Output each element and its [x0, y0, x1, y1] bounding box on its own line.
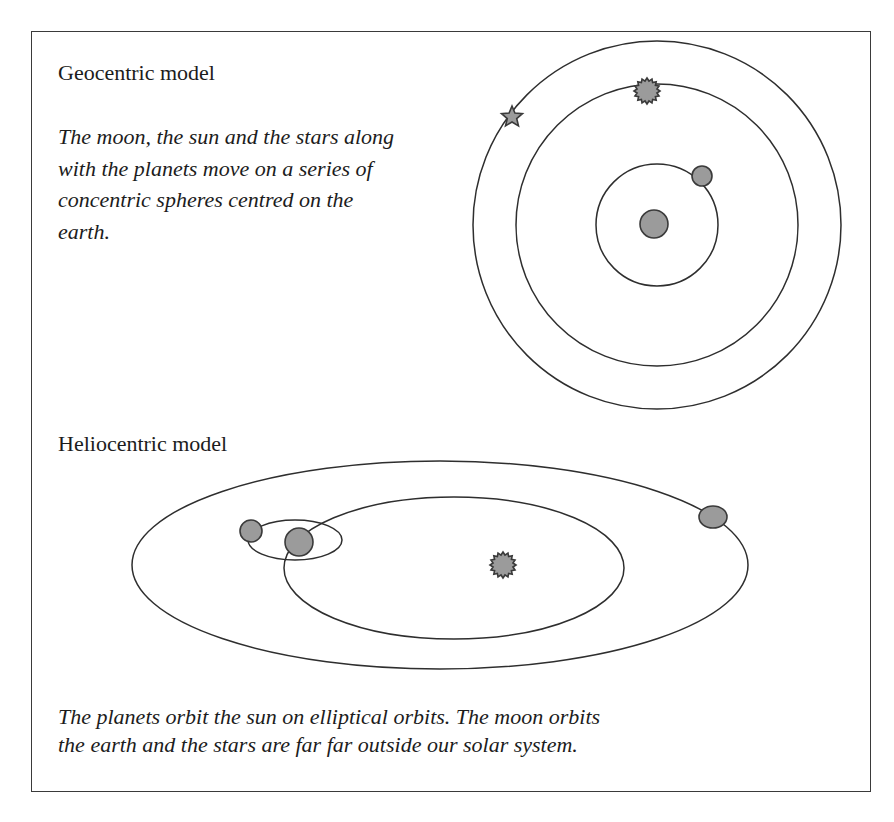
earth-body — [640, 210, 668, 238]
heliocentric-diagram — [132, 461, 748, 669]
geocentric-title: Geocentric model — [58, 62, 215, 84]
heliocentric-title: Heliocentric model — [58, 433, 227, 455]
earth-orbit — [284, 497, 624, 639]
caption-line: The moon, the sun and the stars along — [58, 121, 394, 153]
outer-planet-orbit — [132, 461, 748, 669]
outer-planet-body — [699, 506, 727, 528]
caption-line: with the planets move on a series of — [58, 153, 394, 185]
geocentric-caption: The moon, the sun and the stars along wi… — [58, 121, 394, 247]
moon-body — [240, 520, 262, 542]
caption-line: the earth and the stars are far far outs… — [58, 731, 600, 759]
caption-line: The planets orbit the sun on elliptical … — [58, 703, 600, 731]
heliocentric-caption: The planets orbit the sun on elliptical … — [58, 703, 600, 759]
sun-sun-icon — [490, 552, 516, 578]
earth-body — [285, 528, 313, 556]
caption-line: earth. — [58, 216, 394, 248]
moon-body — [692, 166, 712, 186]
sun-sun-icon — [634, 78, 660, 104]
caption-line: concentric spheres centred on the — [58, 184, 394, 216]
geocentric-diagram — [473, 41, 841, 409]
